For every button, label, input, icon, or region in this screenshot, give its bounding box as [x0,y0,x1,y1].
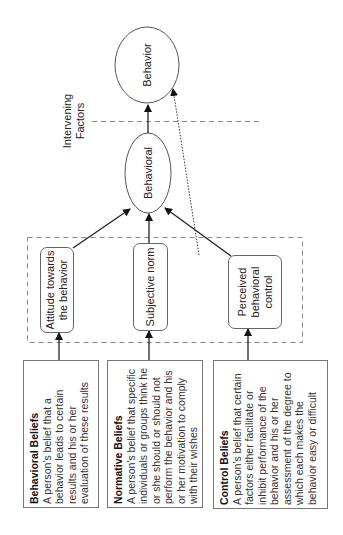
intervening-factors-label: Intervening Factors [60,96,88,146]
intention-label: Behavioral [140,133,156,213]
attitude-label: Attitude towards the behavior [42,250,72,330]
control-beliefs-box: Control Beliefs A person's belief that c… [213,360,328,509]
edge-control-behavior-dotted [173,89,199,255]
behavioral-beliefs-title: Behavioral Beliefs [28,366,41,504]
normative-beliefs-title: Normative Beliefs [112,366,125,504]
behavioral-beliefs-text: A person's belief that a behavior leads … [41,382,91,504]
control-beliefs-title: Control Beliefs [218,366,231,505]
behavior-label: Behavior [139,25,155,105]
behavioral-beliefs-box: Behavioral Beliefs A person's belief tha… [23,360,99,508]
subjective-norm-label: Subjective norm [142,247,158,327]
perceived-control-label: Perceived behavioral control [233,257,277,327]
control-beliefs-text: A person's belief that certain factors e… [231,373,318,506]
normative-beliefs-text: A person's belief that specific individu… [125,368,200,504]
normative-beliefs-box: Normative Beliefs A person's belief that… [107,360,203,508]
edge-attitude-intention [73,209,130,248]
